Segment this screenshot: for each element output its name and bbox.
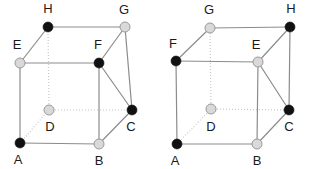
cube-edge-hidden-DC	[211, 109, 289, 110]
cube-edge-EH	[20, 27, 48, 63]
cube-edge-hidden-DG	[210, 28, 211, 109]
cube-vertex-label-C: C	[126, 119, 135, 134]
cube-vertex-A-black	[172, 139, 182, 149]
cube-edge-EH	[258, 27, 290, 62]
right-cube-hidden-edges	[177, 28, 289, 144]
cube-vertex-C-black	[127, 105, 137, 115]
cube-edge-CH	[289, 27, 290, 110]
cube-vertex-F-black	[171, 56, 181, 66]
cube-vertex-label-D: D	[45, 119, 54, 134]
cube-edge-FG	[176, 28, 210, 61]
cube-vertex-label-F: F	[169, 36, 177, 51]
cube-vertex-G-white	[205, 23, 215, 33]
cube-vertex-label-A: A	[14, 152, 23, 167]
right-cube: ABCDEFGH	[169, 1, 296, 168]
cube-vertex-E-white	[253, 57, 263, 67]
cube-edge-FE	[176, 61, 258, 62]
cube-figure: ABCDEFGHABCDEFGH	[0, 0, 312, 169]
cube-edge-EC	[258, 62, 289, 110]
cube-vertex-B-white	[252, 139, 262, 149]
cube-vertex-label-D: D	[206, 119, 215, 134]
cube-vertex-label-E: E	[252, 37, 261, 52]
right-cube-visible-edges	[176, 27, 290, 144]
cube-edge-GH	[210, 27, 290, 28]
cube-edge-FG	[99, 27, 125, 63]
cube-edge-BE	[257, 62, 258, 144]
cube-vertex-label-G: G	[119, 2, 129, 17]
cube-vertex-F-black	[94, 58, 104, 68]
cube-vertex-H-black	[285, 22, 295, 32]
cube-vertex-label-H: H	[43, 1, 52, 16]
left-cube-hidden-edges	[20, 27, 132, 143]
cube-vertex-label-B: B	[95, 153, 104, 168]
left-cube: ABCDEFGH	[13, 1, 137, 168]
cube-vertex-H-black	[43, 22, 53, 32]
cube-vertex-B-white	[94, 139, 104, 149]
cube-vertex-label-B: B	[253, 153, 262, 168]
cube-edge-AF	[176, 61, 177, 144]
cube-vertex-C-black	[284, 105, 294, 115]
cube-vertex-label-F: F	[94, 37, 102, 52]
cube-vertex-label-A: A	[171, 153, 180, 168]
cube-edge-AB	[20, 143, 99, 144]
cube-vertex-label-C: C	[284, 119, 293, 134]
cube-vertex-label-H: H	[286, 1, 295, 16]
cube-diagram-canvas: ABCDEFGHABCDEFGH	[0, 0, 312, 169]
cube-vertex-A-black	[15, 138, 25, 148]
cube-vertex-label-G: G	[204, 2, 214, 17]
cube-vertex-E-white	[15, 58, 25, 68]
cube-edge-FC	[99, 63, 132, 110]
cube-vertex-G-white	[120, 22, 130, 32]
cube-vertex-D-white	[206, 104, 216, 114]
cube-edge-hidden-DH	[48, 27, 49, 110]
cube-vertex-D-white	[44, 105, 54, 115]
left-cube-visible-edges	[20, 27, 132, 144]
cube-vertex-label-E: E	[13, 37, 22, 52]
cube-edge-CG	[125, 27, 132, 110]
